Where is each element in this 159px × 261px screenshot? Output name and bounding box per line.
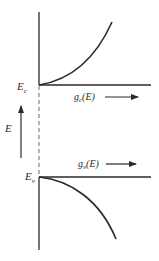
gc-label: gc(E) xyxy=(74,91,96,104)
band-diagram: Ec gc(E) E Ev gv(E) xyxy=(0,0,159,261)
ec-label: Ec xyxy=(16,80,28,95)
gc-curve xyxy=(39,22,112,85)
energy-axis: E xyxy=(4,106,21,158)
valence-band-panel: Ev gv(E) xyxy=(24,158,151,250)
ev-label: Ev xyxy=(24,170,36,185)
gv-curve xyxy=(39,177,116,239)
conduction-band-panel: Ec gc(E) xyxy=(16,12,151,104)
gv-label: gv(E) xyxy=(78,158,100,171)
energy-axis-label: E xyxy=(4,122,12,134)
